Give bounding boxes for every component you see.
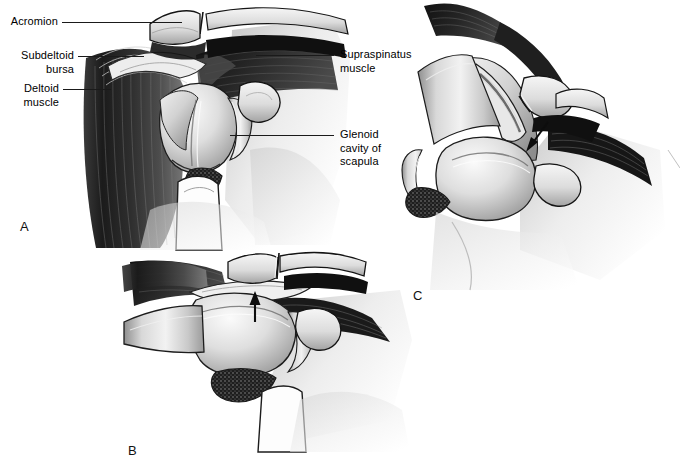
panel-letter-a: A <box>20 219 29 234</box>
panel-c-artwork <box>402 3 665 290</box>
impingement-arrow-b <box>250 291 261 322</box>
label-subdeltoid-bursa: Subdeltoid bursa <box>0 49 74 76</box>
panel-a-artwork <box>84 8 350 250</box>
label-glenoid-cavity: Glenoid cavity of scapula <box>340 128 420 169</box>
panel-b-artwork <box>122 253 412 452</box>
leader-line-supraspinatus-muscle <box>256 55 334 56</box>
leader-line-subdeltoid-bursa <box>78 56 144 57</box>
panel-letter-b: B <box>128 443 137 458</box>
leader-line-deltoid-muscle <box>63 89 111 90</box>
panel-letter-c: C <box>413 288 422 303</box>
leader-line-acromion <box>62 22 182 23</box>
leader-line-glenoid-cavity <box>230 135 334 136</box>
impingement-arrow-c <box>526 122 548 152</box>
label-supraspinatus-muscle: Supraspinatus muscle <box>340 48 440 75</box>
label-acromion: Acromion <box>0 15 58 29</box>
label-deltoid-muscle: Deltoid muscle <box>0 82 59 109</box>
figure-canvas: Acromion Subdeltoid bursa Deltoid muscle… <box>0 0 680 471</box>
